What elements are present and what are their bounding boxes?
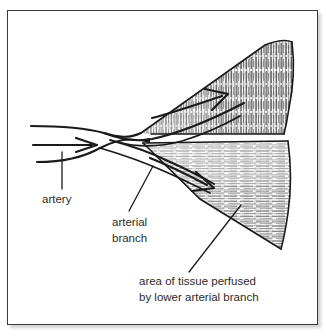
lower-tissue-wedge	[140, 138, 300, 256]
label-perfused-area-line2: by lower arterial branch	[139, 291, 259, 303]
figure-canvas: artery arterial branch area of tissue pe…	[0, 0, 326, 336]
trunk-flow-arrow	[33, 138, 97, 152]
label-perfused-area-line1: area of tissue perfused	[139, 275, 256, 287]
leader-line-arterial-branch	[129, 166, 153, 211]
anatomical-diagram: artery arterial branch area of tissue pe…	[0, 0, 326, 336]
label-arterial-branch-line2: branch	[112, 232, 147, 244]
leader-line-perfused-area	[189, 205, 241, 272]
upper-tissue-wedge	[140, 35, 300, 140]
label-artery: artery	[42, 193, 72, 205]
label-arterial-branch-line1: arterial	[112, 216, 147, 228]
